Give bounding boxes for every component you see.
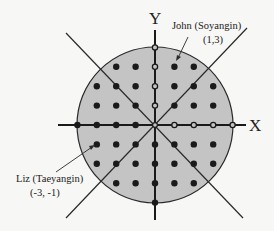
liz-label: Liz (Taeyangin) bbox=[16, 173, 84, 185]
grid-point bbox=[113, 122, 119, 128]
grid-point bbox=[172, 122, 177, 127]
grid-point bbox=[94, 122, 100, 128]
grid-point bbox=[132, 83, 138, 89]
grid-point bbox=[191, 141, 197, 147]
grid-point bbox=[191, 83, 197, 89]
grid-point bbox=[191, 180, 197, 186]
grid-point bbox=[191, 161, 197, 167]
grid-point bbox=[210, 141, 216, 147]
grid-point bbox=[152, 64, 157, 69]
grid-point bbox=[230, 122, 235, 127]
grid-points bbox=[74, 45, 235, 206]
grid-point bbox=[132, 161, 138, 167]
grid-point bbox=[132, 102, 138, 108]
grid-point bbox=[210, 83, 216, 89]
grid-point bbox=[94, 102, 100, 108]
y-axis-label: Y bbox=[149, 9, 161, 28]
grid-point bbox=[171, 102, 177, 108]
grid-point bbox=[210, 102, 216, 108]
grid-point bbox=[132, 180, 138, 186]
x-axis-label: X bbox=[249, 116, 261, 135]
liz-coord: (-3, -1) bbox=[30, 187, 60, 199]
grid-point bbox=[152, 141, 158, 147]
grid-point bbox=[152, 199, 158, 205]
grid-point bbox=[191, 64, 197, 70]
grid-point bbox=[152, 45, 157, 50]
grid-point bbox=[94, 141, 100, 147]
grid-point bbox=[74, 122, 80, 128]
origin-point bbox=[153, 123, 158, 128]
grid-point bbox=[132, 64, 138, 70]
coordinate-diagram: X Y John (Soyangin) (1,3) Liz (Taeyangin… bbox=[0, 0, 274, 231]
grid-point bbox=[152, 180, 158, 186]
grid-point bbox=[152, 103, 157, 108]
grid-point bbox=[171, 83, 177, 89]
grid-point bbox=[132, 122, 138, 128]
john-coord: (1,3) bbox=[203, 34, 224, 46]
grid-point bbox=[152, 161, 158, 167]
grid-point bbox=[94, 161, 100, 167]
grid-point bbox=[113, 161, 119, 167]
grid-point bbox=[210, 161, 216, 167]
grid-point bbox=[132, 141, 138, 147]
grid-point bbox=[113, 141, 119, 147]
grid-point bbox=[113, 102, 119, 108]
grid-point bbox=[113, 64, 119, 70]
grid-point bbox=[171, 141, 177, 147]
grid-point bbox=[191, 122, 196, 127]
grid-point bbox=[113, 180, 119, 186]
grid-point bbox=[171, 64, 177, 70]
grid-point bbox=[94, 83, 100, 89]
grid-point bbox=[113, 83, 119, 89]
grid-point bbox=[211, 122, 216, 127]
grid-point bbox=[171, 180, 177, 186]
john-label: John (Soyangin) bbox=[172, 20, 242, 32]
grid-point bbox=[171, 161, 177, 167]
grid-point bbox=[152, 84, 157, 89]
grid-point bbox=[191, 102, 197, 108]
